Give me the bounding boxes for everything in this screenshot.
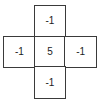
kernel-grid: -1 -1 5 -1 -1: [3, 5, 97, 99]
kernel-cell-top-value: -1: [46, 16, 55, 26]
kernel-cell-empty-bottom-left: [3, 68, 34, 99]
kernel-cell-left-value: -1: [15, 46, 24, 56]
kernel-cell-center: 5: [34, 36, 65, 67]
kernel-cell-right: -1: [64, 36, 97, 67]
kernel-cell-left: -1: [3, 36, 36, 67]
kernel-cell-bottom-value: -1: [46, 77, 55, 87]
kernel-cell-empty-bottom-right: [66, 68, 97, 99]
kernel-cell-right-value: -1: [76, 46, 85, 56]
kernel-cell-empty-top-left: [3, 5, 34, 36]
kernel-cell-bottom: -1: [34, 66, 65, 99]
kernel-cell-center-value: 5: [47, 46, 53, 56]
kernel-cell-empty-top-right: [66, 5, 97, 36]
kernel-cell-top: -1: [34, 5, 65, 38]
kernel-matrix-figure: -1 -1 5 -1 -1: [0, 0, 101, 103]
